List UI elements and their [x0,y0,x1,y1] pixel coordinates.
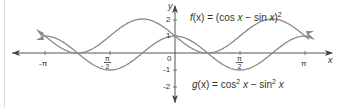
g-equation-label: g(x) = cos2 x − sin2 x [192,78,284,90]
x-tick-label-neg-half-pi: π 2 [104,55,111,70]
y-axis-label: y [168,2,173,11]
y-tick-label-1: 1 [166,32,170,40]
x-tick-label-pi: π [301,60,307,68]
x-tick-label-neg-pi: -π [39,60,47,68]
x-tick-neg-sign: - [101,62,103,69]
left-curve-arrow-icon [36,36,44,40]
f-equation-label: f(x) = (cos x − sin x)2 [190,11,282,23]
right-curve-arrow-icon [306,31,314,35]
x-tick-label-half-pi: π 2 [236,55,243,70]
plot-area [0,0,344,108]
y-tick-label-0: 0 [167,55,171,63]
x-axis-label: x [328,56,333,65]
y-tick-label-2: 2 [166,16,170,24]
right-curve-arrow-icon [306,34,315,40]
y-tick-label-neg2: -2 [163,83,170,91]
y-tick-label-neg1: -1 [163,66,170,74]
